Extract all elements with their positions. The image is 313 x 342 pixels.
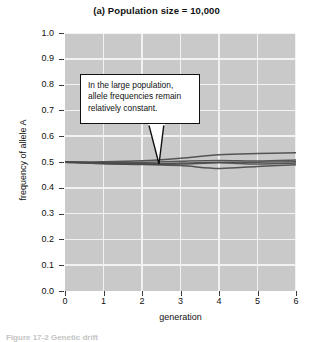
annotation-line-1: In the large population, [88, 80, 193, 91]
x-tick-label: 1 [94, 297, 114, 306]
x-tick-mark [142, 291, 143, 296]
y-tick-mark [59, 59, 64, 60]
x-tick-mark [258, 291, 259, 296]
annotation-callout: In the large population, allele frequenc… [80, 74, 200, 124]
y-tick-label: 1.0 [20, 29, 54, 38]
x-tick-mark [219, 291, 220, 296]
chart-title: (a) Population size = 10,000 [0, 5, 313, 16]
annotation-line-3: relatively constant. [88, 103, 193, 114]
y-tick-mark [59, 136, 64, 137]
x-tick-label: 0 [55, 297, 75, 306]
y-tick-label: 0.0 [20, 287, 54, 296]
y-tick-mark [59, 291, 64, 292]
x-tick-label: 3 [171, 297, 191, 306]
plot-area [65, 33, 296, 291]
callout-tail [148, 123, 176, 165]
y-tick-label: 0.1 [20, 261, 54, 270]
y-tick-label: 0.9 [20, 54, 54, 63]
x-tick-mark [296, 291, 297, 296]
y-tick-mark [59, 85, 64, 86]
annotation-line-2: allele frequencies remain [88, 91, 193, 102]
y-axis-title: frequency of allele A [18, 90, 28, 230]
plot-canvas [65, 33, 296, 291]
y-tick-mark [59, 162, 64, 163]
figure-panel: (a) Population size = 10,000 1.00.90.80.… [0, 0, 313, 342]
y-tick-mark [59, 110, 64, 111]
x-tick-mark [181, 291, 182, 296]
y-tick-mark [59, 239, 64, 240]
x-tick-label: 5 [248, 297, 268, 306]
y-tick-label: 0.8 [20, 80, 54, 89]
x-tick-label: 2 [132, 297, 152, 306]
y-tick-mark [59, 188, 64, 189]
x-tick-mark [104, 291, 105, 296]
x-tick-label: 4 [209, 297, 229, 306]
figure-caption: Figure 17-2 Genetic drift [6, 333, 98, 342]
y-tick-label: 0.2 [20, 235, 54, 244]
y-tick-mark [59, 265, 64, 266]
x-axis-title: generation [65, 312, 296, 322]
y-tick-mark [59, 214, 64, 215]
x-tick-mark [65, 291, 66, 296]
y-tick-mark [59, 33, 64, 34]
x-tick-label: 6 [286, 297, 306, 306]
